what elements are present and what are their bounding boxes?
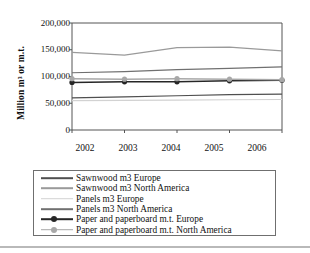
legend-item[interactable]: Sawnwood m3 Europe [34, 173, 275, 183]
series-line [72, 67, 282, 73]
chart-figure: Million m³ or m.t. 200,000 150,000 100,0… [0, 0, 310, 253]
legend-swatch [41, 214, 73, 224]
legend-label: Panels m3 Europe [76, 194, 144, 204]
series-line [72, 94, 282, 98]
x-tick-label: 2004 [151, 143, 191, 153]
chart-svg [0, 0, 310, 165]
x-tick-label: 2003 [108, 143, 148, 153]
legend-item[interactable]: Paper and paperboard m.t. North America [34, 224, 275, 234]
series-marker [227, 77, 232, 82]
x-tick-label: 2006 [237, 143, 277, 153]
series-line [72, 100, 282, 101]
legend-swatch [41, 225, 73, 235]
series-marker [174, 76, 179, 81]
series-marker [69, 76, 74, 81]
chart-legend: Sawnwood m3 EuropeSawnwood m3 North Amer… [33, 170, 276, 236]
legend-swatch [41, 194, 73, 204]
legend-label: Paper and paperboard m.t. North America [76, 225, 232, 235]
bottom-divider [0, 246, 310, 248]
legend-label: Panels m3 North America [76, 204, 172, 214]
series-marker [279, 77, 284, 82]
x-tick-label: 2005 [194, 143, 234, 153]
legend-label: Sawnwood m3 Europe [76, 173, 161, 183]
plot-area: Million m³ or m.t. 200,000 150,000 100,0… [0, 0, 310, 165]
series-marker [122, 77, 127, 82]
legend-label: Sawnwood m3 North America [76, 183, 189, 193]
legend-swatch [41, 204, 73, 214]
legend-item[interactable]: Panels m3 Europe [34, 194, 275, 204]
legend-label: Paper and paperboard m.t. Europe [76, 214, 203, 224]
legend-swatch [41, 173, 73, 183]
data-series-group [69, 47, 284, 101]
legend-swatch [41, 183, 73, 193]
legend-item[interactable]: Sawnwood m3 North America [34, 183, 275, 193]
series-line [72, 47, 282, 55]
legend-item[interactable]: Panels m3 North America [34, 204, 275, 214]
legend-item[interactable]: Paper and paperboard m.t. Europe [34, 214, 275, 224]
x-tick-label: 2002 [65, 143, 105, 153]
